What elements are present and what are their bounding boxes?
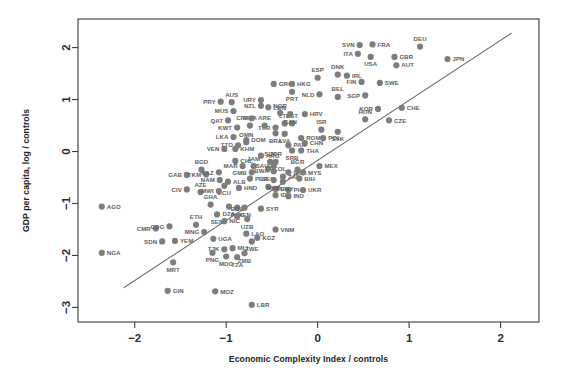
data-point-DNK[interactable]: [335, 72, 341, 78]
data-point-MEX[interactable]: [316, 163, 322, 169]
data-point-MNG[interactable]: [201, 229, 207, 235]
data-point-ROM[interactable]: [298, 135, 304, 141]
data-point-MDA[interactable]: [247, 122, 253, 128]
data-point-NIC[interactable]: [221, 218, 227, 224]
data-point-CRI[interactable]: [249, 115, 255, 121]
data-point-CIV[interactable]: [184, 186, 190, 192]
data-point-ESP[interactable]: [315, 75, 321, 81]
data-point-ZWE[interactable]: [249, 238, 255, 244]
data-point-GIN[interactable]: [165, 288, 171, 294]
data-point-NAM[interactable]: [217, 177, 223, 183]
data-point-COG[interactable]: [166, 223, 172, 229]
data-point-SLV[interactable]: [267, 159, 273, 165]
data-point-MUS[interactable]: [230, 108, 236, 114]
data-point-THA[interactable]: [298, 147, 304, 153]
data-point-LAO[interactable]: [243, 231, 249, 237]
data-point-SVK[interactable]: [335, 129, 341, 135]
data-point-SEN[interactable]: [214, 211, 220, 217]
data-point-CHN[interactable]: [302, 140, 308, 146]
data-point-FRA[interactable]: [369, 41, 375, 47]
data-point-ETH[interactable]: [193, 222, 199, 228]
data-point-RUS[interactable]: [285, 169, 291, 175]
data-point-HKG[interactable]: [289, 81, 295, 87]
data-point-QAT[interactable]: [225, 117, 231, 123]
data-point-AGO[interactable]: [99, 204, 105, 210]
data-point-GBR[interactable]: [391, 54, 397, 60]
data-point-AUT[interactable]: [393, 62, 399, 68]
data-point-KGZ[interactable]: [254, 235, 260, 241]
data-point-label-JPN: JPN: [453, 55, 465, 62]
data-point-ARG[interactable]: [258, 153, 264, 159]
data-point-SRB[interactable]: [289, 147, 295, 153]
data-point-CZE[interactable]: [386, 117, 392, 123]
data-point-IDN[interactable]: [272, 192, 278, 198]
data-point-label-MEX: MEX: [324, 162, 338, 169]
data-point-PRY[interactable]: [218, 99, 224, 105]
data-point-TUR[interactable]: [272, 125, 278, 131]
data-point-DOM[interactable]: [243, 137, 249, 143]
data-point-NZL[interactable]: [258, 103, 264, 109]
data-point-URY[interactable]: [258, 97, 264, 103]
data-point-MKD[interactable]: [271, 177, 277, 183]
data-point-label-ZWE: ZWE: [245, 245, 259, 252]
data-point-KWT[interactable]: [234, 125, 240, 131]
data-point-JPN[interactable]: [444, 56, 450, 62]
data-point-ARE[interactable]: [261, 122, 267, 128]
data-point-BRA[interactable]: [272, 130, 278, 136]
data-point-KOR[interactable]: [375, 106, 381, 112]
data-point-LBR[interactable]: [249, 302, 255, 308]
data-point-BEL[interactable]: [335, 94, 341, 100]
data-point-SYR[interactable]: [258, 206, 264, 212]
data-point-USA[interactable]: [368, 54, 374, 60]
data-point-UGA[interactable]: [210, 236, 216, 242]
data-point-label-HRV: HRV: [310, 110, 324, 117]
data-point-TTO[interactable]: [235, 142, 241, 148]
data-point-DEU[interactable]: [417, 43, 423, 49]
data-point-LVA[interactable]: [282, 131, 288, 137]
data-point-YEM[interactable]: [172, 238, 178, 244]
data-point-MWI[interactable]: [216, 188, 222, 194]
data-point-FIN[interactable]: [358, 79, 364, 85]
data-point-ITA[interactable]: [355, 51, 361, 57]
data-point-UKR[interactable]: [300, 187, 306, 193]
data-point-BGR[interactable]: [294, 167, 300, 173]
data-point-CHL[interactable]: [232, 158, 238, 164]
data-point-BOL[interactable]: [234, 213, 240, 219]
data-point-CAN[interactable]: [287, 111, 293, 117]
data-point-KAZ[interactable]: [216, 169, 222, 175]
data-point-ISR[interactable]: [318, 127, 324, 133]
data-point-MOZ[interactable]: [212, 288, 218, 294]
data-point-LKA[interactable]: [230, 134, 236, 140]
data-point-label-SYR: SYR: [266, 205, 279, 212]
data-point-HUN[interactable]: [362, 116, 368, 122]
data-point-CHE[interactable]: [399, 105, 405, 111]
data-point-GRC[interactable]: [271, 81, 277, 87]
data-point-TJK[interactable]: [221, 246, 227, 252]
data-point-MDG[interactable]: [223, 253, 229, 259]
data-point-PER[interactable]: [247, 175, 253, 181]
data-point-VNM[interactable]: [272, 226, 278, 232]
data-point-HND[interactable]: [236, 185, 242, 191]
data-point-MRT[interactable]: [170, 259, 176, 265]
data-point-IND[interactable]: [285, 193, 291, 199]
data-point-JOR[interactable]: [272, 159, 278, 165]
data-point-NGA[interactable]: [99, 250, 105, 256]
data-point-NOR[interactable]: [277, 110, 283, 116]
data-point-BIH[interactable]: [296, 175, 302, 181]
data-point-PNG[interactable]: [209, 250, 215, 256]
data-point-NLD[interactable]: [316, 91, 322, 97]
data-point-MLI[interactable]: [229, 245, 235, 251]
data-point-HRV[interactable]: [302, 111, 308, 117]
data-point-GHA[interactable]: [208, 201, 214, 207]
data-point-PRT[interactable]: [289, 89, 295, 95]
data-point-AUS[interactable]: [229, 99, 235, 105]
data-point-LBN[interactable]: [265, 104, 271, 110]
data-point-SGP[interactable]: [362, 92, 368, 98]
data-point-ECU[interactable]: [221, 183, 227, 189]
data-point-SWE[interactable]: [377, 80, 383, 86]
data-point-SDN[interactable]: [159, 238, 165, 244]
data-point-ZAF[interactable]: [280, 173, 286, 179]
data-point-SVN[interactable]: [357, 42, 363, 48]
data-point-UZB[interactable]: [244, 216, 250, 222]
data-point-POL[interactable]: [320, 135, 326, 141]
